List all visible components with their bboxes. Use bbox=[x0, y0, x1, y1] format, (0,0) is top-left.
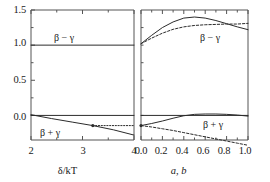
figure-container: 1.5 1.0 0.5 0.0 2 3 4 δ/kT β − γ β + γ 0… bbox=[0, 0, 270, 182]
plot-panel-left: 1.5 1.0 0.5 0.0 2 3 4 δ/kT β − γ β + γ bbox=[0, 0, 135, 182]
curve-label-beta-minus-gamma-right: β − γ bbox=[190, 33, 230, 43]
ytick-label-0.5: 0.5 bbox=[0, 75, 26, 86]
curve-label-beta-minus-gamma-left: β − γ bbox=[44, 33, 84, 43]
ytick-label-0.0: 0.0 bbox=[0, 112, 26, 123]
xtick-label-2: 2 bbox=[23, 146, 39, 157]
curve-label-beta-plus-gamma-right: β + γ bbox=[193, 120, 233, 130]
marker-match-point bbox=[139, 124, 142, 127]
ytick-label-1.5: 1.5 bbox=[0, 5, 26, 16]
xaxis-title-right: a, b bbox=[111, 166, 246, 177]
xtick-label-3: 3 bbox=[75, 146, 91, 157]
plot-area-left bbox=[0, 0, 135, 182]
ytick-label-1.0: 1.0 bbox=[0, 38, 26, 49]
curve-label-beta-plus-gamma-left: β + γ bbox=[30, 128, 70, 138]
plot-panel-right: 0.0 0.2 0.4 0.6 0.8 1.0 a, b β − γ β + γ bbox=[135, 0, 270, 182]
xtick-label-1.0: 1.0 bbox=[233, 146, 257, 157]
marker-match-point bbox=[91, 124, 94, 127]
plot-frame bbox=[31, 10, 134, 140]
